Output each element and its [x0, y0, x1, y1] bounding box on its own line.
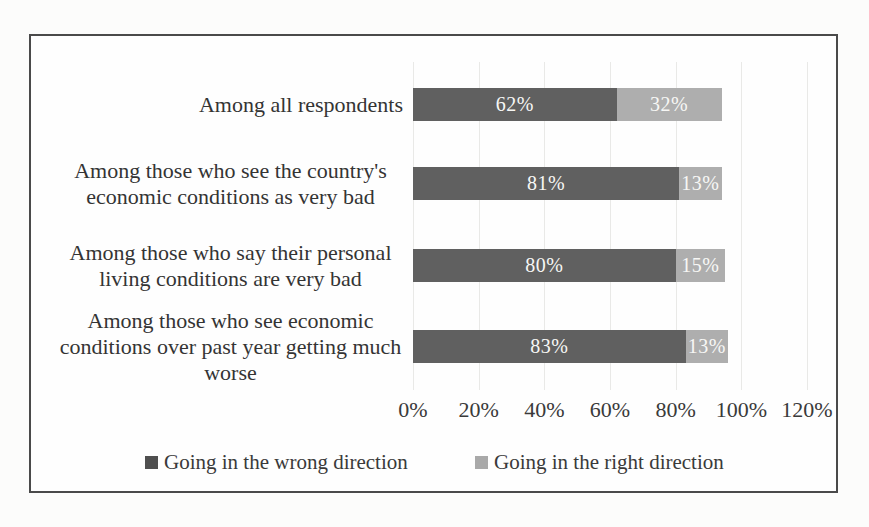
x-tick-label: 60% [590, 397, 630, 423]
legend-item-wrong-direction: Going in the wrong direction [145, 450, 408, 475]
bar-value-label: 62% [496, 93, 534, 116]
x-tick-label: 120% [781, 397, 832, 423]
category-label: Among those who see the country's econom… [58, 158, 403, 210]
x-tick-label: 0% [398, 397, 427, 423]
bar-row: 62%32% [413, 88, 722, 121]
bar-row: 81%13% [413, 167, 722, 200]
x-tick-label: 20% [458, 397, 498, 423]
legend-item-right-direction: Going in the right direction [475, 450, 724, 475]
bar-row: 83%13% [413, 330, 728, 363]
x-tick-label: 80% [655, 397, 695, 423]
bar-segment-right-direction: 13% [686, 330, 729, 363]
bar-segment-wrong-direction: 62% [413, 88, 617, 121]
category-label: Among those who say their personal livin… [58, 240, 403, 292]
legend-label: Going in the right direction [494, 450, 724, 475]
x-tick-label: 100% [716, 397, 767, 423]
bar-value-label: 32% [650, 93, 688, 116]
legend-swatch-icon [145, 456, 158, 469]
chart-frame: Among all respondents62%32%Among those w… [29, 34, 838, 493]
x-tick-label: 40% [524, 397, 564, 423]
bar-row: 80%15% [413, 249, 725, 282]
legend-swatch-icon [475, 456, 488, 469]
bar-value-label: 13% [688, 335, 726, 358]
legend-label: Going in the wrong direction [164, 450, 408, 475]
bar-segment-wrong-direction: 83% [413, 330, 686, 363]
page-background: Among all respondents62%32%Among those w… [0, 0, 869, 527]
gridline [807, 62, 808, 390]
bar-segment-wrong-direction: 81% [413, 167, 679, 200]
gridline [741, 62, 742, 390]
category-label: Among those who see economic conditions … [58, 308, 403, 386]
bar-value-label: 81% [527, 172, 565, 195]
bar-segment-right-direction: 32% [617, 88, 722, 121]
bar-segment-right-direction: 15% [676, 249, 725, 282]
bar-segment-wrong-direction: 80% [413, 249, 676, 282]
bar-value-label: 80% [525, 254, 563, 277]
bar-value-label: 13% [681, 172, 719, 195]
category-label: Among all respondents [199, 92, 403, 118]
bar-segment-right-direction: 13% [679, 167, 722, 200]
bar-value-label: 15% [681, 254, 719, 277]
bar-value-label: 83% [530, 335, 568, 358]
